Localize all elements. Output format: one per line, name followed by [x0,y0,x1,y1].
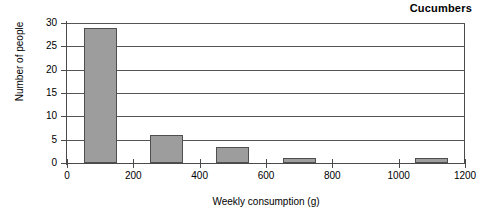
gridline [67,70,465,71]
bar [150,135,183,163]
x-axis-tick [266,159,267,168]
y-axis-tick-label: 10 [31,111,57,121]
y-axis-tick [61,23,66,24]
chart-figure: Cucumbers Number of people 051015202530 … [0,0,493,218]
y-axis-tick [61,163,66,164]
x-axis-tick-label: 600 [246,170,286,181]
x-axis-tick [67,159,68,168]
y-axis-tick-label: 0 [31,158,57,168]
gridline [67,116,465,117]
x-axis-tick-label: 1200 [445,170,485,181]
chart-title: Cucumbers [0,2,472,14]
x-axis-tick [133,159,134,168]
y-axis-tick [61,140,66,141]
bar [415,158,448,163]
x-axis-tick-label: 1000 [379,170,419,181]
y-axis-tick [61,70,66,71]
x-axis-tick-label: 400 [180,170,220,181]
y-axis-tick [61,116,66,117]
x-axis-tick-label: 800 [312,170,352,181]
bar [283,158,316,163]
y-axis-tick-label: 5 [31,135,57,145]
y-axis-tick [61,93,66,94]
y-axis-tick-label: 15 [31,88,57,98]
gridlines [67,23,465,163]
y-axis-tick-label: 25 [31,41,57,51]
bar [216,147,249,163]
x-axis-tick [332,159,333,168]
y-axis-tick-labels: 051015202530 [31,0,57,218]
gridline [67,140,465,141]
x-axis-title: Weekly consumption (g) [67,196,465,207]
y-axis-tick-label: 20 [31,65,57,75]
x-axis-tick-label: 200 [113,170,153,181]
y-axis-tick-label: 30 [31,18,57,28]
bar [84,28,117,163]
x-axis-tick [399,159,400,168]
x-axis-tick-label: 0 [47,170,87,181]
y-axis-tick [61,46,66,47]
x-axis-tick [200,159,201,168]
gridline [67,23,465,24]
x-axis-tick [465,159,466,168]
gridline [67,46,465,47]
gridline [67,93,465,94]
y-axis-title: Number of people [14,7,25,117]
